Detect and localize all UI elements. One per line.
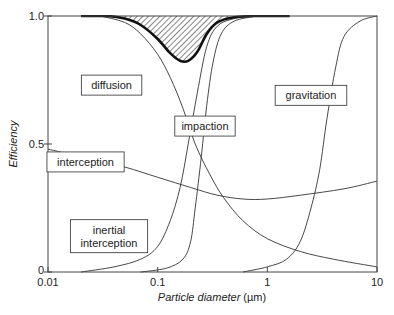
x-tick-label: 0.1	[150, 276, 165, 288]
inertial-interception-label: inertialinterception	[70, 220, 147, 253]
svg-text:inertial: inertial	[93, 224, 125, 236]
svg-text:interception: interception	[81, 237, 138, 249]
y-tick-label: 0	[38, 264, 44, 276]
hatched-region	[81, 16, 290, 62]
curve-labels: diffusioninterceptioninertialinterceptio…	[47, 75, 347, 253]
impaction-label: impaction	[175, 116, 235, 136]
y-tick-label: 1.0	[29, 10, 44, 22]
x-tick-label: 10	[371, 276, 383, 288]
y-axis-ticks: 00.51.0	[29, 10, 52, 276]
x-axis-label-text: Particle diameter	[158, 291, 242, 303]
gravitation-curve	[243, 16, 377, 272]
y-tick-label: 0.5	[29, 138, 44, 150]
svg-text:interception: interception	[57, 156, 114, 168]
x-axis-ticks: 0.010.1110	[37, 267, 383, 288]
svg-text:impaction: impaction	[181, 120, 228, 132]
svg-text:gravitation: gravitation	[286, 89, 337, 101]
gravitation-label: gravitation	[275, 85, 347, 105]
x-axis-label: Particle diameter(µm)	[158, 291, 266, 303]
x-axis-unit: (µm)	[243, 291, 266, 303]
diffusion-label: diffusion	[81, 75, 141, 95]
svg-text:diffusion: diffusion	[91, 79, 132, 91]
x-tick-label: 0.01	[37, 276, 58, 288]
efficiency-chart: 0.010.1110 00.51.0 diffusioninterception…	[0, 0, 394, 315]
interception-label: interception	[47, 152, 124, 172]
hatch-fill	[81, 16, 290, 62]
x-tick-label: 1	[264, 276, 270, 288]
y-axis-label: Efficiency	[7, 119, 19, 168]
